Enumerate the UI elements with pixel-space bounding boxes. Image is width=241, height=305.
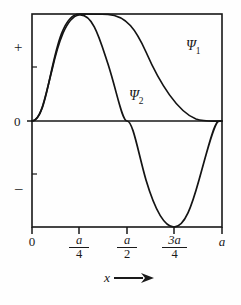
psi2-label: Ψ2 (129, 88, 144, 106)
x-tick-label-0: 0 (24, 234, 40, 250)
x-tick-label-a-over-4-numerator: a (69, 234, 89, 247)
x-tick-label-a-over-2: a 2 (117, 234, 137, 261)
x-tick-label-a-over-4-denominator: 4 (69, 247, 89, 261)
x-tick-label-3a-over-4-denominator: 4 (162, 247, 187, 261)
x-tick-label-a-over-2-numerator: a (117, 234, 137, 247)
x-tick-label-a: a (214, 234, 230, 250)
y-label-negative: – (14, 180, 23, 196)
x-axis-caption: x (104, 270, 154, 286)
right-arrow-icon (114, 272, 154, 284)
wavefunction-figure: Ψ1 Ψ2 + 0 – 0 a 4 a 2 3a 4 a x (0, 0, 241, 305)
psi1-label: Ψ1 (186, 38, 201, 56)
y-label-positive: + (14, 39, 22, 55)
x-tick-label-3a-over-4: 3a 4 (162, 234, 187, 261)
x-tick-label-a-over-2-denominator: 2 (117, 247, 137, 261)
curve-psi1 (32, 14, 222, 121)
y-label-zero: 0 (14, 114, 21, 129)
x-tick-label-3a-over-4-numerator: 3a (162, 234, 187, 247)
x-axis-caption-label: x (104, 270, 110, 286)
x-tick-label-a-over-4: a 4 (69, 234, 89, 261)
